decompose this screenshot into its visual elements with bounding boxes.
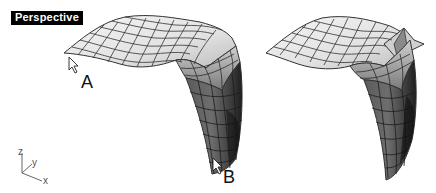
axis-label-z: z	[18, 146, 23, 157]
point-label-b: B	[223, 168, 235, 186]
perspective-viewport[interactable]: z y x Perspective A B	[0, 0, 436, 193]
original-surface[interactable]	[64, 16, 242, 174]
edited-surface[interactable]	[266, 17, 424, 180]
scene-canvas[interactable]: z y x	[0, 0, 436, 193]
axis-gizmo-icon: z y x	[18, 146, 48, 186]
viewport-title[interactable]: Perspective	[11, 11, 83, 25]
cursor-arrow-icon-a	[69, 57, 78, 73]
point-label-a: A	[81, 73, 93, 91]
axis-label-y: y	[32, 157, 37, 168]
axis-label-x: x	[43, 175, 48, 186]
